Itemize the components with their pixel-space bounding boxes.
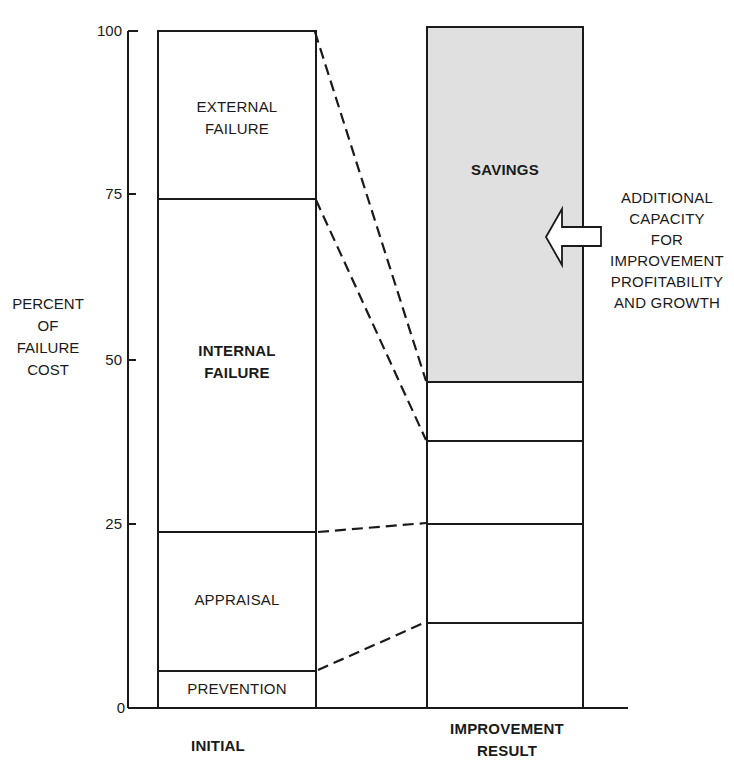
segment-label-prevention: PREVENTION [158,678,316,700]
additional-capacity-annotation: ADDITIONAL CAPACITY FOR IMPROVEMENT PROF… [597,187,734,313]
segment-label-line: INTERNAL [158,340,316,362]
segment-label-line: EXTERNAL [158,96,316,118]
tick-label-25: 25 [82,516,122,532]
connector-external [316,200,426,440]
segment-label-line: FAILURE [158,362,316,384]
segment-label-appraisal: APPRAISAL [158,589,316,611]
y-axis-title-line: OF [2,315,94,337]
segment-label-external-failure: EXTERNAL FAILURE [158,96,316,140]
y-axis-title-line: PERCENT [2,293,94,315]
savings-fill [427,27,583,382]
category-label-initial: INITIAL [158,735,278,757]
segment-label-internal-failure: INTERNAL FAILURE [158,340,316,384]
tick-label-0: 0 [85,700,125,716]
category-label-line: IMPROVEMENT [427,718,587,740]
annotation-line: CAPACITY [597,208,734,229]
category-label-line: RESULT [427,740,587,762]
y-axis-title-line: COST [2,359,94,381]
segment-label-line: PREVENTION [158,678,316,700]
annotation-line: FOR [597,229,734,250]
annotation-line: PROFITABILITY [597,271,734,292]
connector-internal [318,523,426,532]
savings-label: SAVINGS [427,159,583,181]
tick-label-100: 100 [82,23,122,39]
annotation-line: AND GROWTH [597,292,734,313]
y-axis-title-line: FAILURE [2,337,94,359]
connector-top [315,32,426,381]
category-label-improvement-result: IMPROVEMENT RESULT [427,718,587,762]
y-axis-title: PERCENT OF FAILURE COST [2,293,94,381]
chart-graphics [0,0,734,763]
annotation-line: ADDITIONAL [597,187,734,208]
tick-label-75: 75 [82,186,122,202]
connector-appraisal [318,622,426,670]
annotation-line: IMPROVEMENT [597,250,734,271]
segment-label-line: APPRAISAL [158,589,316,611]
segment-label-line: FAILURE [158,118,316,140]
